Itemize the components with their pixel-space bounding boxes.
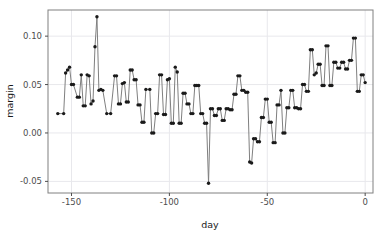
data-point	[93, 45, 96, 48]
data-point	[330, 84, 333, 87]
x-tick-label: -100	[160, 197, 179, 207]
data-point	[66, 68, 69, 71]
data-point	[211, 107, 214, 110]
data-point	[219, 107, 222, 110]
data-point	[234, 93, 237, 96]
data-point	[156, 112, 159, 115]
data-point	[95, 15, 98, 18]
data-point	[334, 61, 337, 64]
data-point	[148, 88, 151, 91]
data-point	[287, 106, 290, 109]
data-point	[187, 102, 190, 105]
data-point	[273, 141, 276, 144]
data-point	[142, 121, 145, 124]
x-tick-label: -150	[62, 197, 81, 207]
data-point	[262, 116, 265, 119]
data-point	[123, 81, 126, 84]
data-point	[101, 89, 104, 92]
y-axis-title: margin	[4, 84, 15, 118]
data-point	[127, 100, 130, 103]
data-point	[64, 71, 67, 74]
data-point	[80, 73, 83, 76]
data-point	[362, 73, 365, 76]
data-point	[291, 89, 294, 92]
data-point	[207, 182, 210, 185]
data-point	[87, 74, 90, 77]
data-point	[168, 77, 171, 80]
data-point	[238, 74, 241, 77]
data-point	[283, 131, 286, 134]
data-point	[115, 74, 118, 77]
data-point	[277, 103, 280, 106]
data-point	[299, 107, 302, 110]
data-point	[326, 44, 329, 47]
data-point	[346, 67, 349, 70]
data-point	[350, 59, 353, 62]
data-point	[197, 84, 200, 87]
data-point	[307, 90, 310, 93]
data-point	[246, 91, 249, 94]
data-point	[172, 122, 175, 125]
data-point	[315, 71, 318, 74]
data-point	[250, 161, 253, 164]
data-point	[138, 103, 141, 106]
plot-panel-background	[48, 10, 373, 193]
data-point	[322, 84, 325, 87]
data-point	[223, 119, 226, 122]
data-point	[62, 112, 65, 115]
data-point	[130, 68, 133, 71]
y-tick-label: 0.05	[23, 80, 42, 90]
data-point	[119, 102, 122, 105]
data-point	[338, 66, 341, 69]
y-tick-label: -0.05	[20, 176, 42, 186]
data-point	[311, 48, 314, 51]
data-point	[164, 113, 167, 116]
data-point	[354, 36, 357, 39]
data-point	[266, 97, 269, 100]
data-point	[342, 61, 345, 64]
data-point	[215, 114, 218, 117]
data-point	[254, 137, 257, 140]
data-point	[269, 121, 272, 124]
data-point	[134, 78, 137, 81]
data-point	[230, 108, 233, 111]
y-tick-label: 0.00	[23, 128, 42, 138]
data-point	[363, 81, 366, 84]
data-point	[105, 112, 108, 115]
data-point	[56, 112, 59, 115]
data-point	[84, 104, 87, 107]
data-point	[144, 88, 147, 91]
data-point	[358, 90, 361, 93]
data-point	[109, 112, 112, 115]
data-point	[89, 102, 92, 105]
data-point	[152, 131, 155, 134]
data-point	[72, 83, 75, 86]
margin-vs-day-line-chart: -0.050.000.050.10-150-100-500 day margin	[0, 0, 387, 235]
data-point	[201, 112, 204, 115]
data-point	[258, 140, 261, 143]
data-point	[68, 65, 71, 68]
chart-figure: -0.050.000.050.10-150-100-500 day margin	[0, 0, 387, 235]
data-point	[183, 92, 186, 95]
x-axis-title: day	[201, 219, 219, 230]
data-point	[78, 95, 81, 98]
data-point	[179, 122, 182, 125]
data-point	[160, 73, 163, 76]
data-point	[318, 63, 321, 66]
x-tick-label: 0	[362, 197, 367, 207]
y-tick-label: 0.10	[23, 31, 42, 41]
data-point	[174, 65, 177, 68]
data-point	[191, 112, 194, 115]
data-point	[303, 83, 306, 86]
data-point	[176, 70, 179, 73]
data-point	[91, 99, 94, 102]
data-point	[279, 89, 282, 92]
x-tick-label: -50	[260, 197, 274, 207]
data-point	[205, 122, 208, 125]
